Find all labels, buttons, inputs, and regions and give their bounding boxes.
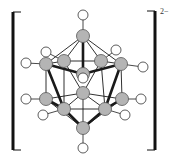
hydrogen-atom [138, 62, 148, 72]
hydrogen-atom [111, 45, 121, 55]
boron-atom [77, 122, 90, 135]
hydrogen-atom [21, 58, 31, 68]
molecule-structure [0, 0, 181, 163]
boron-atom [58, 55, 71, 68]
charge-label: 2− [160, 8, 169, 16]
boron-atom [40, 58, 53, 71]
b12h12-diagram: 2− [0, 0, 181, 163]
boron-atom [40, 93, 53, 106]
hydrogen-atom [78, 10, 88, 20]
hydrogen-atom [41, 47, 51, 57]
boron-atom [77, 30, 90, 43]
boron-atom [58, 103, 71, 116]
hydrogen-atom [21, 94, 31, 104]
hydrogen-atom [78, 73, 88, 83]
hydrogen-atom [78, 143, 88, 153]
hydrogen-atom [38, 110, 48, 120]
boron-atom [95, 55, 108, 68]
boron-atom [115, 58, 128, 71]
hydrogen-atom [120, 110, 130, 120]
boron-atom [99, 103, 112, 116]
boron-atom [116, 93, 129, 106]
hydrogen-atom [136, 94, 146, 104]
boron-atom [77, 87, 90, 100]
